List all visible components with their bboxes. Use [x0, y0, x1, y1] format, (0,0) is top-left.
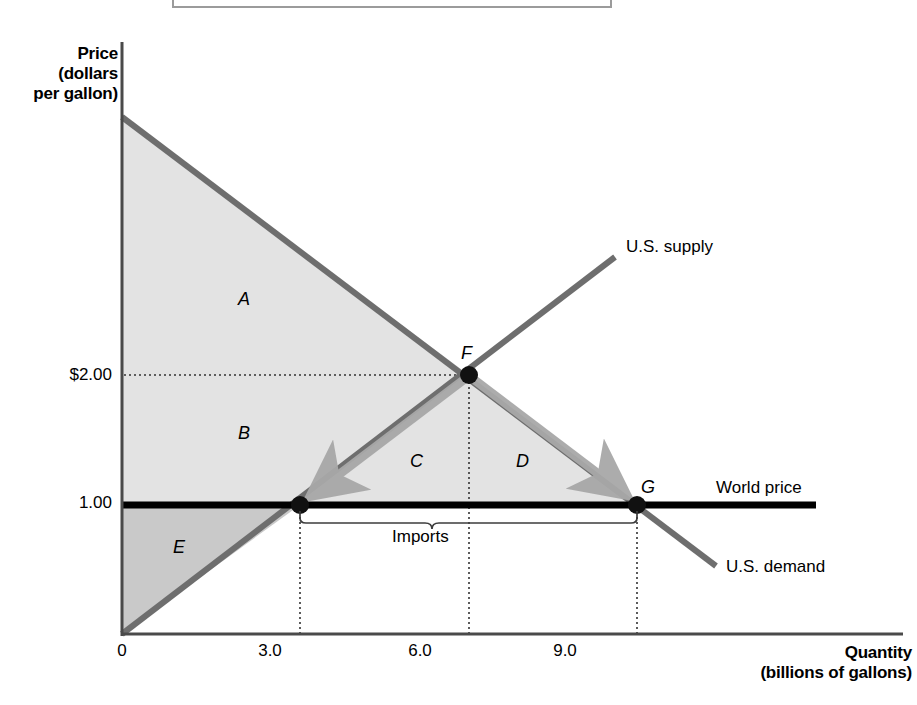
- x-tick-label-0: 0: [92, 641, 152, 661]
- point-label-g: G: [641, 477, 655, 498]
- point-F-marker: [460, 366, 478, 384]
- trade-diagram-figure: Price (dollars per gallon) Quantity (bil…: [0, 0, 917, 705]
- world-price-label: World price: [716, 478, 802, 498]
- imports-label: Imports: [392, 527, 449, 547]
- us-demand-label: U.S. demand: [726, 557, 825, 577]
- x-tick-label-6-0: 6.0: [390, 641, 450, 661]
- plot-canvas: [0, 0, 917, 705]
- region-label-a: A: [238, 289, 250, 310]
- region-label-c: C: [410, 451, 423, 472]
- quantity-axis-title: Quantity (billions of gallons): [690, 643, 912, 683]
- region-label-d: D: [516, 451, 529, 472]
- y-tick-label-1-00: 1.00: [20, 493, 112, 513]
- region-label-e: E: [173, 537, 185, 558]
- point-label-f: F: [461, 343, 472, 364]
- y-tick-label-2-00: $2.00: [20, 365, 112, 385]
- x-tick-label-3-0: 3.0: [240, 641, 300, 661]
- x-tick-label-9-0: 9.0: [535, 641, 595, 661]
- price-axis-title: Price (dollars per gallon): [0, 44, 118, 104]
- region-label-b: B: [238, 423, 250, 444]
- us-supply-label: U.S. supply: [626, 237, 713, 257]
